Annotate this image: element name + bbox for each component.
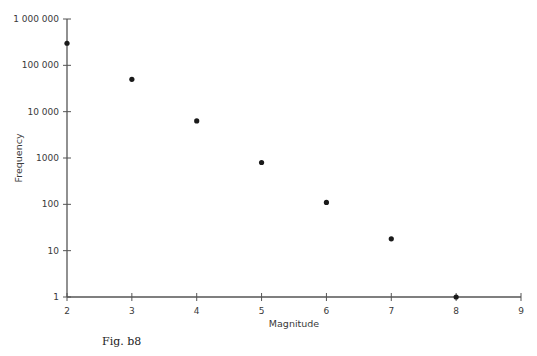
x-axis-title: Magnitude xyxy=(269,318,319,329)
y-tick-label: 100 xyxy=(42,199,59,209)
data-point xyxy=(194,118,199,123)
axes xyxy=(67,19,521,297)
figure-caption: Fig. b8 xyxy=(102,335,141,348)
scatter-chart: 110100100010 000100 0001 000 000 2345678… xyxy=(0,0,537,356)
y-tick-label: 1 xyxy=(53,292,59,302)
x-tick-label: 9 xyxy=(518,306,524,316)
x-tick-label: 8 xyxy=(453,306,459,316)
x-tick-label: 4 xyxy=(194,306,200,316)
y-tick-label: 10 xyxy=(48,246,60,256)
data-point xyxy=(64,41,69,46)
data-point xyxy=(389,236,394,241)
data-point xyxy=(454,294,459,299)
x-tick-label: 5 xyxy=(259,306,265,316)
data-point xyxy=(259,160,264,165)
y-tick-label: 1000 xyxy=(36,153,59,163)
data-point xyxy=(324,200,329,205)
x-tick-label: 6 xyxy=(324,306,330,316)
x-tick-label: 3 xyxy=(129,306,135,316)
data-point xyxy=(129,77,134,82)
data-points xyxy=(64,41,458,300)
y-tick-label: 1 000 000 xyxy=(13,14,59,24)
x-tick-label: 2 xyxy=(64,306,70,316)
x-tick-label: 7 xyxy=(388,306,394,316)
y-tick-label: 100 000 xyxy=(22,60,59,70)
y-axis-title: Frequency xyxy=(13,133,24,182)
y-tick-label: 10 000 xyxy=(28,107,60,117)
